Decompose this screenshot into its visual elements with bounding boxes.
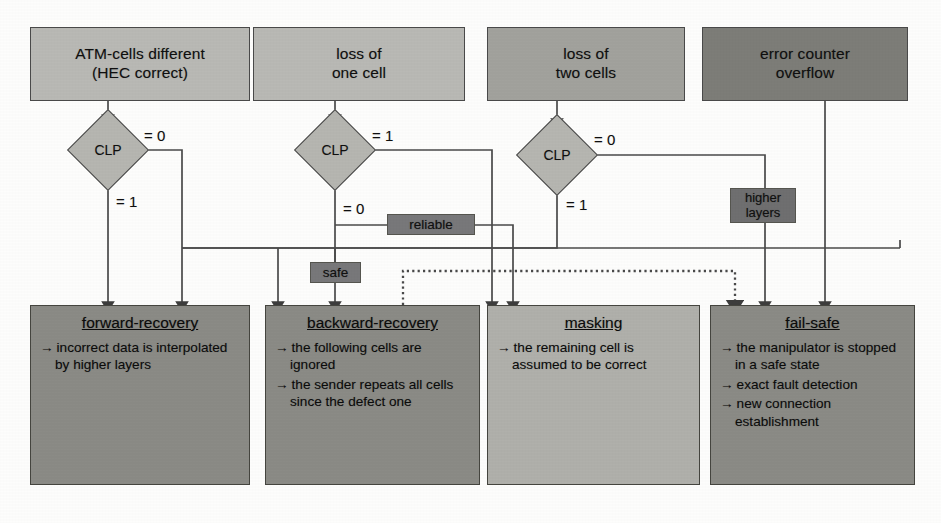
result-box-masking[interactable]: masking →the remaining cell is assumed t…: [487, 305, 700, 485]
result-bullet-text: the sender repeats all cells since the d…: [290, 377, 453, 409]
arrow-icon: →: [275, 340, 289, 355]
tag-line-2: layers: [746, 206, 781, 221]
result-title: fail-safe: [720, 314, 905, 332]
event-box-error-counter-overflow[interactable]: error counter overflow: [702, 27, 908, 101]
edge-label-clp1-right: = 0: [144, 127, 165, 144]
edge-label-clp3-down: = 1: [566, 196, 587, 213]
result-bullet: →new connection establishment: [720, 395, 905, 430]
result-box-backward-recovery[interactable]: backward-recovery →the following cells a…: [265, 305, 480, 485]
decision-label: CLP: [528, 126, 586, 184]
result-title: masking: [497, 314, 690, 332]
event-line-1: ATM-cells different: [75, 45, 205, 64]
result-bullet: →the remaining cell is assumed to be cor…: [497, 339, 690, 374]
result-bullet: →exact fault detection: [720, 376, 905, 393]
tag-line-1: higher: [745, 191, 781, 206]
result-title: forward-recovery: [40, 314, 240, 332]
event-box-loss-of-two-cells[interactable]: loss of two cells: [487, 27, 685, 101]
tag-reliable[interactable]: reliable: [387, 214, 475, 235]
result-bullet: →the sender repeats all cells since the …: [275, 376, 470, 411]
result-bullet-text: incorrect data is interpolated by higher…: [55, 340, 227, 372]
arrow-icon: →: [40, 340, 54, 355]
decision-clp-3[interactable]: CLP: [528, 126, 586, 184]
wire-reliable-to-masking: [474, 225, 513, 305]
event-line-1: loss of: [556, 45, 616, 64]
decision-label: CLP: [79, 121, 137, 179]
wire-dotted-backward-to-failsafe: [403, 271, 735, 305]
result-bullet: →incorrect data is interpolated by highe…: [40, 339, 240, 374]
event-box-loss-of-one-cell[interactable]: loss of one cell: [253, 27, 465, 101]
event-line-2: overflow: [760, 64, 850, 83]
tag-higher-layers[interactable]: higher layers: [730, 188, 796, 223]
result-bullet-list: →the manipulator is stopped in a safe st…: [720, 339, 905, 430]
event-line-2: (HEC correct): [75, 64, 205, 83]
arrow-icon: →: [497, 340, 511, 355]
result-bullet-list: →the remaining cell is assumed to be cor…: [497, 339, 690, 374]
result-bullet: →the following cells are ignored: [275, 339, 470, 374]
arrow-icon: →: [720, 340, 734, 355]
arrow-icon: →: [720, 377, 734, 392]
result-bullet-list: →the following cells are ignored →the se…: [275, 339, 470, 411]
event-box-atm-cells-different[interactable]: ATM-cells different (HEC correct): [30, 27, 250, 101]
event-line-1: error counter: [760, 45, 850, 64]
arrow-icon: →: [275, 377, 289, 392]
edge-label-clp1-down: = 1: [116, 193, 137, 210]
event-line-1: loss of: [332, 45, 386, 64]
result-title: backward-recovery: [275, 314, 470, 332]
event-line-2: one cell: [332, 64, 386, 83]
edge-label-clp3-right: = 0: [594, 131, 615, 148]
result-bullet-text: the manipulator is stopped in a safe sta…: [735, 340, 896, 372]
wire-clp3-eq0: [586, 155, 765, 305]
event-line-2: two cells: [556, 64, 616, 83]
edge-label-clp2-right: = 1: [372, 127, 393, 144]
diagram-canvas: ATM-cells different (HEC correct) loss o…: [0, 0, 941, 523]
decision-label: CLP: [306, 121, 364, 179]
tag-safe[interactable]: safe: [310, 262, 361, 283]
result-bullet-text: exact fault detection: [737, 377, 858, 392]
result-box-fail-safe[interactable]: fail-safe →the manipulator is stopped in…: [710, 305, 915, 485]
wire-clp1-eq0: [137, 150, 182, 305]
edge-label-clp2-down: = 0: [343, 200, 364, 217]
decision-clp-2[interactable]: CLP: [306, 121, 364, 179]
result-box-forward-recovery[interactable]: forward-recovery →incorrect data is inte…: [30, 305, 250, 485]
decision-clp-1[interactable]: CLP: [79, 121, 137, 179]
result-bullet-list: →incorrect data is interpolated by highe…: [40, 339, 240, 374]
arrow-icon: →: [720, 396, 734, 411]
result-bullet-text: the remaining cell is assumed to be corr…: [512, 340, 647, 372]
result-bullet: →the manipulator is stopped in a safe st…: [720, 339, 905, 374]
result-bullet-text: the following cells are ignored: [290, 340, 422, 372]
wire-clp3-eq1: [182, 188, 557, 248]
result-bullet-text: new connection establishment: [735, 396, 831, 428]
